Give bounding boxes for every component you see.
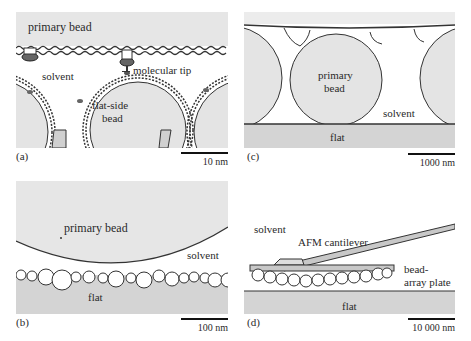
panel-a-label: (a) [16, 151, 28, 162]
panel-a-scale-label: 10 nm [181, 157, 228, 167]
panel-b-scale-bar [181, 318, 228, 320]
panel-c-label: (c) [247, 151, 259, 162]
panel-a: primary bead solvent molecular tip flat-… [16, 12, 228, 148]
panel-c-scale-bar [408, 153, 455, 155]
bead-array-plate-label-line2: array plate [404, 277, 451, 288]
afm-cantilever-label: AFM cantilever [298, 237, 368, 248]
primary-bead-label-line2: bead [324, 83, 345, 94]
solvent-label: solvent [42, 71, 74, 82]
solvent-label: solvent [187, 250, 219, 261]
flat-label: flat [330, 132, 345, 143]
panel-b-scale-label: 100 nm [181, 323, 228, 333]
panel-a-scale-bar [181, 152, 228, 154]
molecular-tip-leader-line [122, 71, 130, 72]
bead-array-plate-label-line1: bead- [404, 264, 428, 275]
panel-b-diagram [16, 181, 228, 314]
panel-d-scale-bar [408, 318, 455, 320]
flat-side-bead-label-line1: flat-side [92, 100, 128, 111]
molecular-tip-label: molecular tip [133, 65, 191, 76]
primary-bead-label-line1: primary [318, 70, 353, 81]
panel-d-scale-label: 10 000 nm [385, 323, 455, 333]
panel-b-label: (b) [16, 317, 29, 328]
solvent-label: solvent [254, 224, 286, 235]
primary-bead-label: primary bead [64, 222, 128, 234]
panel-c-scale-label: 1000 nm [395, 158, 455, 168]
panel-c: primary bead solvent flat [244, 12, 455, 148]
panel-d-label: (d) [247, 317, 260, 328]
flat-side-bead-label-line2: bead [102, 113, 123, 124]
primary-bead-label: primary bead [28, 21, 92, 33]
flat-label: flat [342, 301, 357, 312]
flat-label: flat [88, 292, 103, 303]
panel-b: primary bead solvent flat [16, 181, 228, 314]
solvent-label: solvent [383, 108, 415, 119]
panel-d: solvent AFM cantilever bead- array plate… [244, 181, 455, 314]
